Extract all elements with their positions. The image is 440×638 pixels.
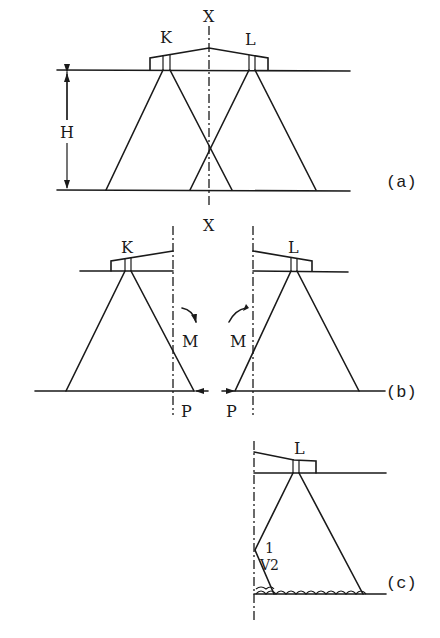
top-surface-line xyxy=(57,70,350,71)
label-l-b: L xyxy=(288,238,299,257)
top-surface-right xyxy=(253,271,348,272)
moment-arrow-left xyxy=(182,308,196,322)
l-left-leg-b xyxy=(235,271,291,391)
k-right-leg xyxy=(170,70,232,190)
panel-tag-b: (b) xyxy=(386,383,417,402)
label-h: H xyxy=(60,123,74,142)
label-p-right: P xyxy=(226,402,237,421)
k-left-leg-b xyxy=(66,271,125,391)
diagram-canvas: X K L H (a) X K xyxy=(0,0,440,638)
panel-c: L 1 V2 (c) xyxy=(254,439,417,620)
l-right-leg-b xyxy=(297,271,359,391)
l-right-leg-c xyxy=(299,473,363,594)
label-k: K xyxy=(160,28,173,47)
panel-b: X K M P L M P (b) xyxy=(35,216,417,421)
roof-beam-c xyxy=(254,452,316,473)
l-right-leg xyxy=(255,70,316,190)
label-l: L xyxy=(245,30,256,49)
label-m-left: M xyxy=(182,332,198,351)
axis-label-x: X xyxy=(203,7,215,26)
slope-rise: 1 xyxy=(265,540,274,556)
bent-left-leg-c xyxy=(255,473,293,594)
bottom-surface-line xyxy=(57,190,350,191)
moment-arrow-right-head xyxy=(243,304,249,311)
panel-tag-a: (a) xyxy=(386,173,417,192)
l-left-leg xyxy=(190,70,249,190)
label-p-left: P xyxy=(181,402,192,421)
panel-a: X K L H (a) xyxy=(57,7,417,206)
k-right-leg-b xyxy=(131,271,194,391)
slope-run: V2 xyxy=(259,557,279,573)
label-m-right: M xyxy=(230,332,246,351)
label-l-c: L xyxy=(294,439,305,458)
axis-label-x-b: X xyxy=(203,216,215,235)
k-left-leg xyxy=(106,70,163,190)
roof-beam-right xyxy=(253,251,312,271)
panel-tag-c: (c) xyxy=(386,574,417,593)
label-k-b: K xyxy=(121,238,134,257)
